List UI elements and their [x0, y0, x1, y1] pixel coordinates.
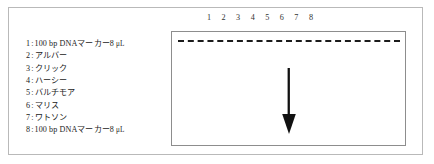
legend-item-label: 100 bp DNAマーカー8 — [35, 39, 117, 48]
legend-item-label: アルバー — [35, 51, 67, 60]
legend-item: 1:100 bp DNAマーカー8 μL — [26, 38, 181, 50]
legend-item: 6:マリス — [26, 100, 181, 112]
lane-number-3: 3 — [233, 13, 243, 22]
lane-number-1: 1 — [204, 13, 214, 22]
migration-direction-arrow-icon — [281, 68, 297, 134]
legend-item: 8:100 bp DNAマーカー8 μL — [26, 124, 181, 136]
legend-item: 3:クリック — [26, 63, 181, 75]
legend-item-label: バルチモア — [35, 88, 76, 97]
lane-number-7: 7 — [291, 13, 301, 22]
legend-item-label: ワトソン — [35, 113, 67, 122]
legend-item-label: 100 bp DNAマーカー8 — [35, 125, 117, 134]
lane-number-4: 4 — [248, 13, 258, 22]
legend-item-unit: μL — [116, 40, 124, 48]
legend-item: 2:アルバー — [26, 50, 181, 62]
legend-item-label: マリス — [35, 101, 59, 110]
lane-number-5: 5 — [262, 13, 272, 22]
legend-item-unit: μL — [116, 126, 124, 134]
legend-item-label: クリック — [35, 64, 67, 73]
gel-wells-dashed-line — [178, 40, 400, 42]
lane-number-2: 2 — [219, 13, 229, 22]
legend-item: 5:バルチモア — [26, 87, 181, 99]
gel-electrophoresis-figure: 1:100 bp DNAマーカー8 μL 2:アルバー 3:クリック 4:ハーシ… — [0, 0, 434, 164]
lane-legend-list: 1:100 bp DNAマーカー8 μL 2:アルバー 3:クリック 4:ハーシ… — [26, 38, 181, 137]
lane-number-row: 1 2 3 4 5 6 7 8 — [204, 13, 316, 22]
legend-item-label: ハーシー — [35, 76, 67, 85]
lane-number-8: 8 — [306, 13, 316, 22]
legend-item: 4:ハーシー — [26, 75, 181, 87]
lane-number-6: 6 — [277, 13, 287, 22]
legend-item: 7:ワトソン — [26, 112, 181, 124]
